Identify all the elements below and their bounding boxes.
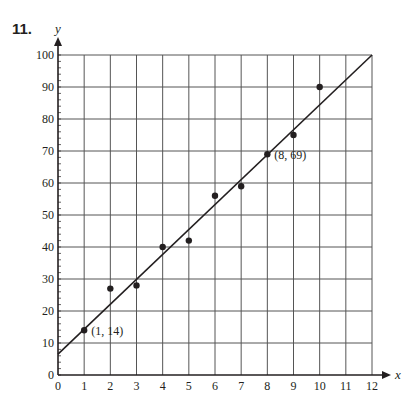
data-point: [238, 183, 244, 189]
y-tick-label: 50: [42, 208, 54, 222]
y-axis-label: y: [53, 21, 61, 36]
x-tick-label: 11: [340, 379, 352, 393]
x-tick-label: 0: [55, 379, 61, 393]
scatter-chart: xy 0123456789101112010203040506070809010…: [0, 0, 412, 404]
x-tick-label: 12: [366, 379, 378, 393]
point-annotation: (1, 14): [91, 324, 123, 338]
x-tick-label: 3: [134, 379, 140, 393]
y-tick-label: 80: [42, 112, 54, 126]
y-tick-label: 30: [42, 272, 54, 286]
x-tick-label: 6: [212, 379, 218, 393]
data-points: [81, 84, 323, 334]
x-tick-label: 9: [291, 379, 297, 393]
x-tick-label: 10: [314, 379, 326, 393]
x-axis-label: x: [394, 367, 401, 382]
data-point: [290, 132, 296, 138]
y-tick-label: 20: [42, 304, 54, 318]
data-point: [186, 237, 192, 243]
tick-labels: 01234567891011120102030405060708090100: [36, 48, 378, 393]
point-annotation: (8, 69): [274, 148, 306, 162]
data-point: [264, 151, 270, 157]
x-tick-label: 4: [160, 379, 166, 393]
y-tick-label: 10: [42, 336, 54, 350]
x-axis-arrow-icon: [382, 371, 391, 379]
data-point: [212, 193, 218, 199]
point-annotations: (1, 14)(8, 69): [91, 148, 306, 338]
data-point: [316, 84, 322, 90]
y-axis-arrow-icon: [54, 37, 62, 46]
y-tick-label: 90: [42, 80, 54, 94]
y-tick-label: 40: [42, 240, 54, 254]
x-tick-label: 8: [264, 379, 270, 393]
x-tick-label: 2: [107, 379, 113, 393]
x-tick-label: 7: [238, 379, 244, 393]
data-point: [133, 282, 139, 288]
x-tick-label: 1: [81, 379, 87, 393]
data-point: [107, 285, 113, 291]
y-tick-label: 0: [48, 368, 54, 382]
y-tick-label: 60: [42, 176, 54, 190]
data-point: [81, 327, 87, 333]
y-tick-label: 100: [36, 48, 54, 62]
data-point: [159, 244, 165, 250]
y-tick-label: 70: [42, 144, 54, 158]
x-tick-label: 5: [186, 379, 192, 393]
